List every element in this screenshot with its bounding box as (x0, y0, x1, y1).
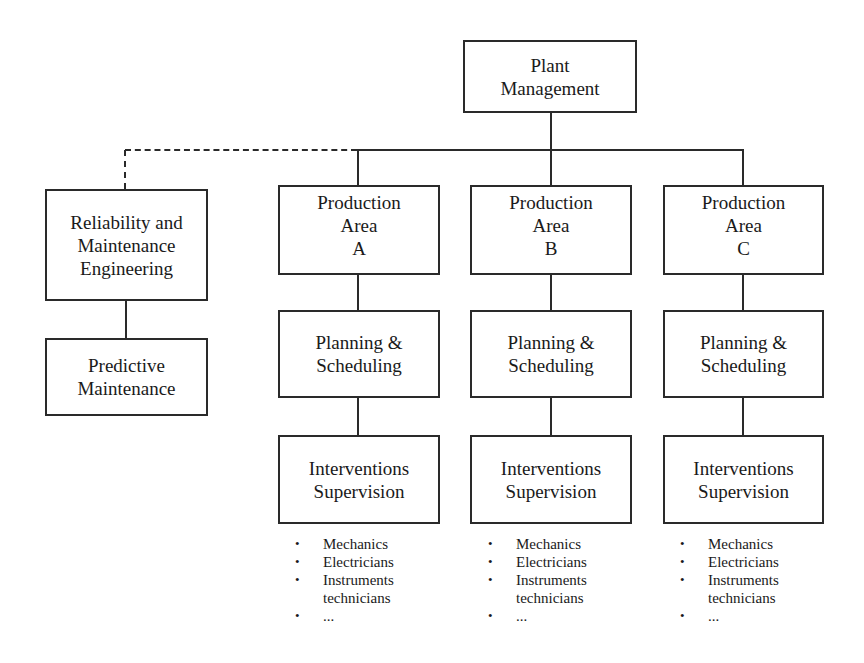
box-label-line: Planning & (507, 331, 594, 354)
box-label-line: A (352, 237, 366, 260)
dashed-staff-connector (125, 149, 357, 151)
staff-list-item: Mechanics (293, 535, 394, 553)
box-label-line: Supervision (506, 480, 597, 503)
staff-list-b: Mechanics Electricians Instruments techn… (486, 535, 587, 625)
staff-list-item: Electricians (678, 553, 779, 571)
box-label-line: Interventions (693, 457, 793, 480)
area-b-drop (550, 150, 552, 186)
box-label-line: Supervision (314, 480, 405, 503)
a-plan-int-connector (357, 396, 359, 436)
box-label-line: B (545, 237, 558, 260)
box-label-line: Supervision (698, 480, 789, 503)
area-c-drop (742, 150, 744, 186)
b-prod-plan-connector (550, 274, 552, 311)
box-label-line: Scheduling (316, 354, 402, 377)
production-area-a-box: Production Area A (278, 185, 440, 275)
staff-list-a: Mechanics Electricians Instruments techn… (293, 535, 394, 625)
planning-scheduling-a-box: Planning & Scheduling (278, 310, 440, 398)
box-label-line: Production (509, 191, 592, 214)
production-area-b-box: Production Area B (470, 185, 632, 275)
reliability-maintenance-engineering-box: Reliability and Maintenance Engineering (45, 189, 208, 301)
b-plan-int-connector (550, 396, 552, 436)
box-label-line: Area (533, 214, 570, 237)
interventions-supervision-c-box: Interventions Supervision (663, 435, 824, 524)
staff-list-item: Instruments (486, 571, 587, 589)
c-prod-plan-connector (742, 274, 744, 311)
a-prod-plan-connector (357, 274, 359, 311)
staff-list-c: Mechanics Electricians Instruments techn… (678, 535, 779, 625)
box-label-line: Area (725, 214, 762, 237)
box-label-line: Production (317, 191, 400, 214)
staff-connector (125, 300, 127, 339)
staff-list-item: Instruments (678, 571, 779, 589)
staff-list-item: ... (486, 607, 587, 625)
box-label-line: C (737, 237, 750, 260)
staff-list-item: ... (678, 607, 779, 625)
box-label-line: Predictive (88, 354, 165, 377)
staff-list-item: Mechanics (678, 535, 779, 553)
predictive-maintenance-box: Predictive Maintenance (45, 338, 208, 416)
box-label-line: Maintenance (77, 234, 175, 257)
box-label-line: Planning & (700, 331, 787, 354)
planning-scheduling-b-box: Planning & Scheduling (470, 310, 632, 398)
box-label-line: Scheduling (508, 354, 594, 377)
box-label-line: Scheduling (701, 354, 787, 377)
area-a-drop (357, 150, 359, 186)
root-connector (550, 112, 552, 151)
box-label-line: Reliability and (70, 211, 182, 234)
box-label-line: Plant (530, 54, 569, 77)
box-label-line: Interventions (309, 457, 409, 480)
box-label-line: Management (500, 77, 599, 100)
box-label-line: Engineering (80, 257, 173, 280)
box-label-line: Area (341, 214, 378, 237)
staff-list-item: ... (293, 607, 394, 625)
interventions-supervision-a-box: Interventions Supervision (278, 435, 440, 524)
staff-list-item: Mechanics (486, 535, 587, 553)
plant-management-box: Plant Management (463, 40, 637, 113)
staff-list-item: technicians (678, 589, 779, 607)
staff-list-item: Electricians (293, 553, 394, 571)
staff-list-item: technicians (293, 589, 394, 607)
box-label-line: Maintenance (77, 377, 175, 400)
interventions-supervision-b-box: Interventions Supervision (470, 435, 632, 524)
staff-list-item: Electricians (486, 553, 587, 571)
dashed-staff-drop (124, 150, 126, 189)
c-plan-int-connector (742, 396, 744, 436)
planning-scheduling-c-box: Planning & Scheduling (663, 310, 824, 398)
production-area-c-box: Production Area C (663, 185, 824, 275)
box-label-line: Planning & (315, 331, 402, 354)
box-label-line: Interventions (501, 457, 601, 480)
staff-list-item: technicians (486, 589, 587, 607)
box-label-line: Production (702, 191, 785, 214)
staff-list-item: Instruments (293, 571, 394, 589)
